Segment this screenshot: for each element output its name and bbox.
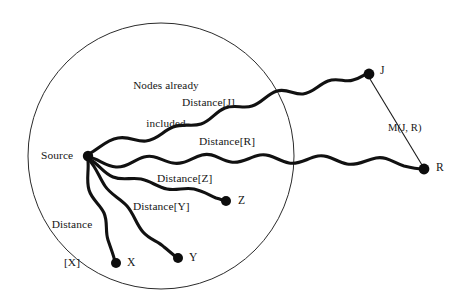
path-label-distance-x-line1: Distance bbox=[44, 218, 100, 231]
path-label-distance-j: Distance[J] bbox=[182, 96, 235, 109]
node-x bbox=[111, 258, 121, 268]
included-region-label-line2: included bbox=[118, 117, 214, 130]
node-label-y: Y bbox=[189, 251, 197, 264]
node-label-x: X bbox=[127, 256, 135, 269]
node-y bbox=[173, 253, 183, 263]
node-label-j: J bbox=[380, 64, 385, 77]
path-label-distance-x: Distance [X] bbox=[44, 192, 100, 294]
node-label-source: Source bbox=[41, 149, 73, 162]
node-source bbox=[83, 151, 93, 161]
node-label-z: Z bbox=[238, 194, 245, 207]
node-label-r: R bbox=[436, 161, 444, 174]
path-label-distance-y: Distance[Y] bbox=[133, 200, 190, 213]
included-region-label-line1: Nodes already bbox=[118, 79, 214, 92]
wavy-path-source-to-r bbox=[89, 154, 423, 169]
path-label-distance-x-line2: [X] bbox=[44, 256, 100, 269]
dijkstra-diagram: Nodes already included Distance[J] Dista… bbox=[0, 0, 462, 301]
node-z bbox=[221, 196, 231, 206]
path-label-distance-z: Distance[Z] bbox=[157, 172, 213, 185]
edge-label-metric-jr: M(J, R) bbox=[388, 122, 422, 134]
path-label-distance-r: Distance[R] bbox=[199, 135, 255, 148]
node-r bbox=[419, 164, 430, 175]
node-j bbox=[364, 69, 375, 80]
